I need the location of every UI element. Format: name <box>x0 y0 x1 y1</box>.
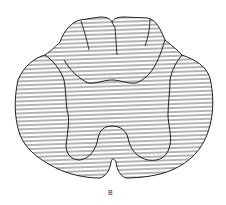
figure-label: B <box>108 189 113 197</box>
hatch-fill <box>0 0 226 205</box>
diagram-figure <box>0 0 226 205</box>
